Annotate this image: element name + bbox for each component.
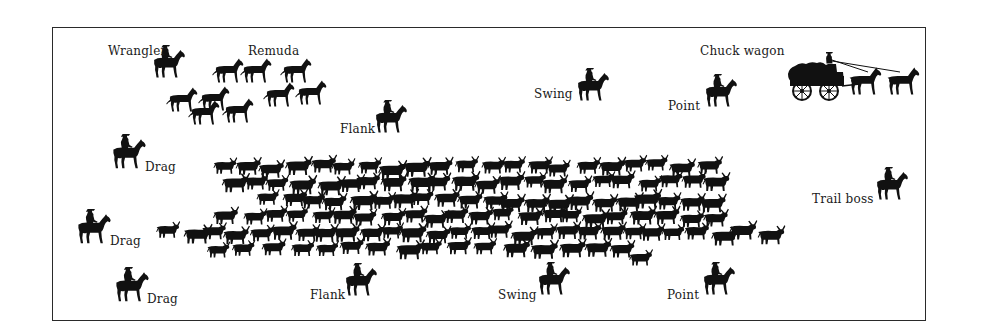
steer-icon [396,239,425,259]
label-drag-2: Drag [110,235,141,247]
cowboy-riders [78,45,908,301]
steer-icon [426,226,452,244]
steer-icon [568,175,593,192]
horse-icon [280,59,311,83]
steer-icon [559,238,587,257]
steer-icon [381,208,407,226]
steer-icon [448,223,472,239]
horse-icon [166,88,197,112]
cattle-drive-diagram: Wrangler Remuda Chuck wagon Swing Point … [0,0,981,336]
steer-icon [661,224,685,240]
rider-trail-boss-icon [877,167,908,200]
label-flank-bottom: Flank [310,289,345,301]
steer-icon [265,174,289,190]
steer-icon [410,188,434,205]
label-point-top: Point [668,100,700,112]
steer-icon [223,226,250,244]
horse-icon [222,99,253,123]
steer-icon [356,172,381,189]
steer-icon [680,210,706,227]
steer-icon [703,209,729,227]
steer-icon [316,240,339,256]
steer-icon [645,155,669,171]
label-swing-bottom: Swing [498,289,537,301]
horse-icon [240,59,271,83]
steer-icon [264,205,289,222]
rider-drag-2-icon [78,209,110,243]
steer-icon [291,240,315,256]
steer-icon [285,156,313,175]
steer-icon [399,222,428,242]
steer-icon [654,205,681,223]
steer-icon [468,206,494,224]
label-trail-boss: Trail boss [812,193,874,205]
steer-icon [213,157,237,173]
steer-icon [658,170,683,187]
steer-icon [358,157,382,174]
steer-icon [640,223,666,241]
steer-icon [286,206,309,222]
horse-icon [212,59,243,83]
steer-icon [457,190,484,208]
steer-icon [503,238,531,257]
label-swing-top: Swing [534,88,573,100]
horse-icon [263,83,294,107]
rider-flank-top-icon [376,100,407,133]
steer-icon [270,221,298,240]
rider-swing-top-icon [578,68,609,101]
steer-icon [669,158,696,177]
steer-icon [481,157,506,174]
steer-icon [729,220,757,239]
steer-icon [599,157,627,176]
chuck-wagon-illustration [788,52,919,100]
remuda-horses [166,59,326,125]
steer-icon [534,223,558,239]
steer-icon [518,207,545,225]
label-point-bottom: Point [667,289,699,301]
steer-icon [638,175,662,191]
steer-icon [236,157,262,175]
steer-icon [567,191,595,210]
steer-icon [340,237,365,254]
rider-flank-bottom-icon [346,263,377,296]
steer-icon [403,205,428,222]
steer-icon [681,170,706,187]
steer-icon [629,249,653,265]
steer-icon [488,220,513,237]
horse-icon [295,81,326,105]
steer-icon [380,172,407,191]
steer-icon [311,155,337,173]
steer-icon [473,238,497,254]
steer-icon [222,173,250,192]
steer-icon [758,225,786,244]
steer-icon [697,156,723,174]
label-wrangler: Wrangler [108,45,166,57]
steer-icon [262,238,287,255]
rider-drag-1-icon [113,134,145,168]
chuck-wagon-icon [788,52,919,100]
steer-icon [623,155,648,172]
steer-icon [451,171,480,191]
steer-icon [257,189,280,205]
steer-icon [427,157,454,175]
rider-swing-bottom-icon [539,262,570,295]
rider-point-bottom-icon [704,262,735,295]
steer-icon [577,157,602,174]
rider-drag-3-icon [116,267,148,301]
steer-icon [524,172,547,188]
rider-point-top-icon [706,74,737,107]
steer-icon [213,206,239,224]
label-drag-3: Drag [147,293,178,305]
steer-icon [434,188,461,206]
steer-icon [455,156,479,173]
steer-icon [530,239,559,259]
steer-icon [497,171,525,190]
label-chuck-wagon: Chuck wagon [700,45,785,57]
steer-icon [156,221,180,237]
steer-icon [609,170,636,188]
label-remuda: Remuda [248,45,299,57]
steer-icon [243,208,267,225]
label-drag-1: Drag [145,161,176,173]
steer-icon [289,175,318,194]
steer-icon [703,172,731,191]
